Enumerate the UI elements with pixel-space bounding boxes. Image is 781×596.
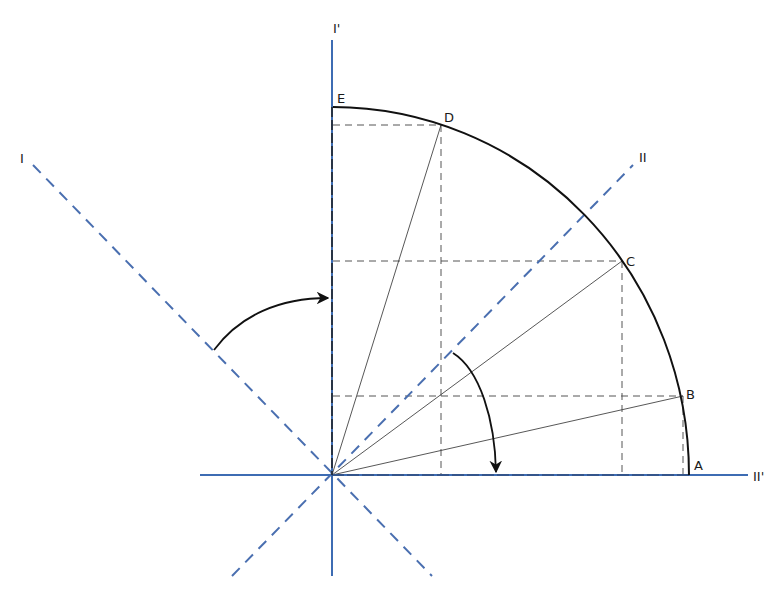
label-axis-II-prime: II' (753, 469, 764, 484)
rotation-arrow-I-to-I-prime (214, 298, 328, 350)
label-point-E: E (337, 91, 345, 106)
label-axis-II: II (639, 150, 647, 165)
stress-arc-E-to-A (333, 107, 689, 475)
projection-lines (333, 125, 683, 475)
label-point-B: B (686, 387, 695, 402)
ray-to-B (332, 396, 683, 475)
label-point-C: C (626, 254, 635, 269)
axis-I (33, 165, 432, 576)
ray-to-D (332, 125, 441, 475)
rotation-arrow-II-to-II-prime (453, 353, 496, 472)
label-point-D: D (444, 110, 454, 125)
radial-lines (332, 125, 683, 475)
label-axis-I-prime: I' (333, 21, 340, 36)
principal-axes-rotation-diagram: I II I' II' A B C D E (0, 0, 781, 596)
axis-II (232, 165, 633, 576)
ray-to-C (332, 261, 622, 475)
label-point-A: A (694, 458, 703, 473)
label-axis-I: I (20, 151, 24, 166)
